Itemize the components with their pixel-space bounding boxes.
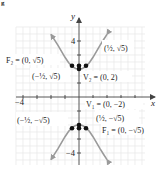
lower-left-point — [70, 126, 75, 131]
upper-right-point — [84, 63, 89, 68]
label-lower-left: (−½, −√5) — [17, 116, 50, 125]
label-v1: V₁ = (0, −2) — [86, 100, 125, 109]
y-axis-label: y — [70, 11, 75, 21]
y-tick-label-neg4: −4 — [66, 148, 76, 158]
focus-f2-point — [77, 63, 82, 68]
x-tick-label-neg4: −4 — [15, 97, 25, 107]
corner-mark: g — [1, 0, 5, 7]
hyperbola-diagram: g y x −4 4 −4 — [0, 0, 167, 172]
label-upper-left: (−½, √5) — [32, 72, 61, 81]
focus-f1-point — [77, 126, 82, 131]
label-v2: V₂ = (0, 2) — [83, 73, 118, 82]
upper-left-point — [70, 63, 75, 68]
x-axis-label: x — [150, 98, 155, 108]
label-f1: F₁ = (0, −√5) — [102, 126, 144, 135]
label-f2: F₂ = (0, √5) — [6, 56, 44, 65]
lower-right-point — [84, 126, 89, 131]
label-lower-right: (½, −√5) — [96, 114, 125, 123]
label-upper-right: (½, √5) — [104, 44, 128, 53]
